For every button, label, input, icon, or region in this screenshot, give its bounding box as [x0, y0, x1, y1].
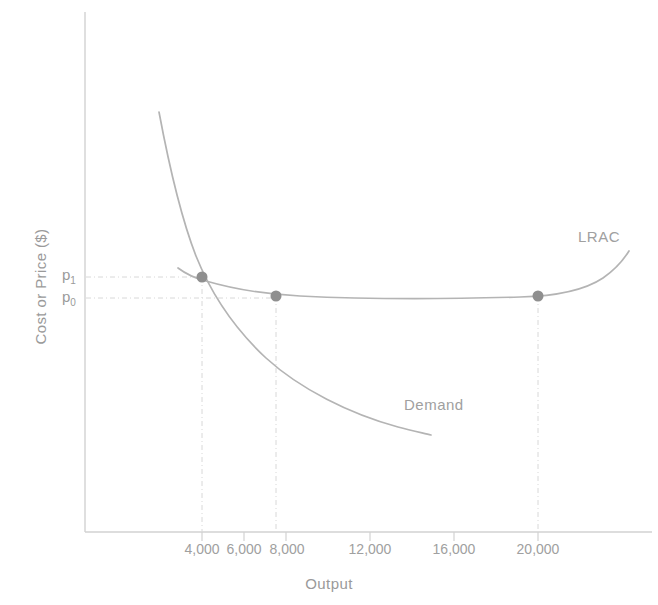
x-tick-label-16000: 16,000: [433, 541, 476, 557]
data-point-equilibrium-p1: [197, 272, 208, 283]
x-axis-title: Output: [0, 575, 658, 592]
price-label-p0-sub: 0: [70, 297, 76, 308]
x-tick-label-8000: 8,000: [269, 541, 304, 557]
price-label-p1-sub: 1: [70, 275, 76, 286]
x-tick-label-20000: 20,000: [517, 541, 560, 557]
x-tick-marks: [202, 532, 538, 541]
x-tick-label-4000: 4,000: [184, 541, 219, 557]
x-tick-label-12000: 12,000: [349, 541, 392, 557]
lrac-label: LRAC: [578, 228, 620, 245]
demand-label: Demand: [404, 396, 464, 413]
chart-canvas: [0, 0, 658, 605]
lrac-curve: [178, 251, 629, 298]
price-label-p1: p1: [62, 266, 76, 286]
y-axis-title: Cost or Price ($): [32, 162, 49, 412]
horizontal-guides: [86, 277, 277, 298]
economics-chart: Output Cost or Price ($) 4,000 6,000 8,0…: [0, 0, 658, 605]
vertical-guides: [202, 277, 538, 532]
data-point-equilibrium-p0-8000: [271, 291, 282, 302]
x-tick-label-6000: 6,000: [226, 541, 261, 557]
price-label-p0: p0: [62, 288, 76, 308]
data-point-equilibrium-p0-20000: [533, 291, 544, 302]
